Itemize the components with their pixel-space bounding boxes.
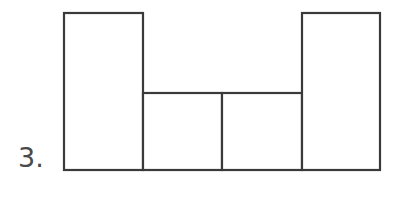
figure-canvas: 3.	[0, 0, 393, 199]
bar-rect-4	[302, 13, 380, 170]
bar-rect-3	[222, 93, 302, 170]
item-number-label: 3.	[18, 143, 44, 173]
bar-rect-2	[143, 93, 222, 170]
bar-rect-1	[64, 13, 143, 170]
bar-figure	[0, 0, 393, 199]
